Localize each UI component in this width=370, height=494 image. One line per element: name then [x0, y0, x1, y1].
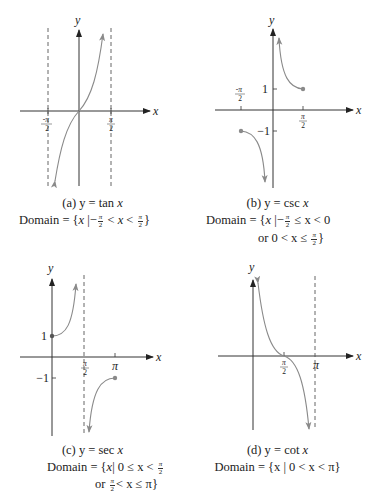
y-axis-label: y: [47, 261, 54, 275]
tick-neg-pi-over-2: -π 2: [235, 85, 245, 103]
caption-d-title: (d) y = cot x: [185, 443, 370, 458]
tick-pi: π: [313, 358, 320, 372]
tick-neg-one: −1: [257, 124, 270, 138]
caption-c-domain-line2: or π2< x ≤ π}: [95, 477, 158, 493]
svg-text:2: 2: [109, 124, 113, 133]
endpoint-dot: [301, 87, 305, 91]
caption-b-domain-line1: Domain = {x |−π2 ≤ x < 0: [206, 213, 330, 229]
tick-pi: π: [112, 359, 119, 373]
svg-text:π: π: [83, 359, 87, 368]
svg-text:-π: -π: [236, 85, 242, 94]
y-axis-label: y: [74, 13, 81, 27]
caption-d-domain: Domain = {x | 0 < x < π}: [185, 460, 370, 475]
tick-pi-over-2: π 2: [107, 115, 115, 133]
svg-text:2: 2: [301, 121, 305, 130]
caption-a-domain: Domain = {x |−π2 < x < π2}: [19, 213, 150, 229]
svg-text:2: 2: [238, 94, 242, 103]
caption-c-domain-line1: Domain = {x| 0 ≤ x < π2: [47, 460, 164, 476]
x-axis-label: x: [355, 103, 362, 117]
x-axis-label: x: [152, 104, 159, 118]
csc-curve-lower: [241, 131, 265, 182]
svg-text:2: 2: [45, 124, 49, 133]
tick-pi-over-2: π 2: [280, 358, 288, 376]
svg-text:π: π: [301, 112, 305, 121]
caption-b-domain-line2: or 0 < x ≤ π2}: [258, 231, 324, 247]
svg-text:π: π: [282, 358, 286, 367]
panel-a-tan-graph: [20, 28, 150, 186]
panel-d-cot-graph: [218, 276, 353, 430]
tick-one: 1: [262, 82, 268, 96]
svg-text:2: 2: [83, 368, 87, 377]
caption-func: tan: [99, 196, 114, 210]
x-axis-label: x: [355, 349, 362, 363]
panel-c-sec-graph: [20, 275, 153, 436]
sec-curve-lower: [89, 378, 115, 432]
svg-text:2: 2: [282, 367, 286, 376]
trig-graphs-figure: y x y x y x y x -π 2 π 2 -π 2 π 2: [0, 0, 370, 494]
caption-var: x: [117, 196, 123, 210]
caption-prefix: (a) y =: [62, 196, 99, 210]
svg-text:π: π: [109, 115, 113, 124]
endpoint-dot: [50, 334, 54, 338]
x-axis-label: x: [155, 350, 162, 364]
tick-neg-one: −1: [36, 371, 49, 385]
sec-curve-upper: [52, 284, 76, 336]
csc-curve-upper: [279, 38, 303, 89]
endpoint-dot: [239, 129, 243, 133]
tick-one: 1: [41, 329, 47, 343]
tick-neg-pi-over-2: -π 2: [41, 115, 52, 133]
tick-pi-over-2: π 2: [299, 112, 307, 130]
caption-b-title: (b) y = csc x: [185, 196, 370, 211]
tick-pi-over-2: π 2: [81, 359, 89, 377]
panel-b-csc-graph: [215, 29, 353, 188]
caption-c-title: (c) y = sec x: [0, 443, 185, 458]
endpoint-dot: [113, 376, 117, 380]
svg-text:-π: -π: [43, 115, 49, 124]
y-axis-label: y: [268, 13, 275, 27]
caption-a-title: (a) y = tan x: [0, 196, 185, 211]
y-axis-label: y: [248, 260, 255, 274]
